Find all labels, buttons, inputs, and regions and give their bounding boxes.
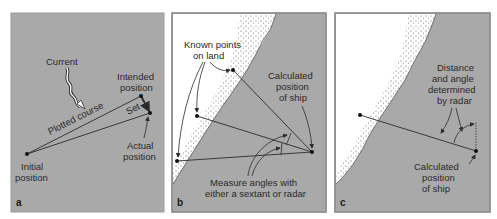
known-point <box>358 113 362 117</box>
current-label: Current <box>46 56 78 67</box>
calculated-position-label-line1: Calculated <box>268 70 313 81</box>
calculated-position-label-line1: Calculated <box>414 161 459 172</box>
actual-position-label-line1: Actual <box>127 140 153 151</box>
measure-angles-label-line1: Measure angles with <box>210 177 297 188</box>
distance-angle-label-line3: determined <box>428 84 476 95</box>
calculated-position-label-line3: of ship <box>422 183 450 194</box>
calculated-position-label-line2: position <box>276 81 309 92</box>
known-point-3 <box>175 159 179 163</box>
panel-a-letter: a <box>16 197 22 208</box>
actual-position-label-line2: position <box>123 151 156 162</box>
known-point-2 <box>195 114 199 118</box>
panel-b: Known points on land Calculated position… <box>172 13 326 212</box>
actual-position-point <box>148 111 152 115</box>
calculated-position-label-line2: position <box>422 172 455 183</box>
known-points-label-line2: on land <box>193 50 224 61</box>
initial-position-label-line2: position <box>15 172 48 183</box>
panel-c: Distance and angle determined by radar C… <box>335 13 490 212</box>
initial-position-point <box>25 152 29 156</box>
intended-position-label-line2: position <box>120 82 153 93</box>
panel-a: Current Intended position Plotted course… <box>11 13 164 212</box>
distance-angle-label-line1: Distance <box>437 62 474 73</box>
measure-angles-label-line2: either a sextant or radar <box>205 188 306 199</box>
calculated-position-label-line3: of ship <box>279 92 307 103</box>
panel-c-letter: c <box>340 197 346 208</box>
navigation-figure: Current Intended position Plotted course… <box>0 0 497 219</box>
panel-b-letter: b <box>177 197 183 208</box>
ship-position-point <box>474 149 478 153</box>
known-point-1 <box>231 68 235 72</box>
intended-position-point <box>139 94 143 98</box>
distance-angle-label-line4: by radar <box>437 95 472 106</box>
distance-angle-label-line2: and angle <box>432 73 474 84</box>
ship-position-point <box>310 150 314 154</box>
initial-position-label-line1: Initial <box>21 161 43 172</box>
intended-position-label-line1: Intended <box>117 71 154 82</box>
known-points-label-line1: Known points <box>184 39 241 50</box>
